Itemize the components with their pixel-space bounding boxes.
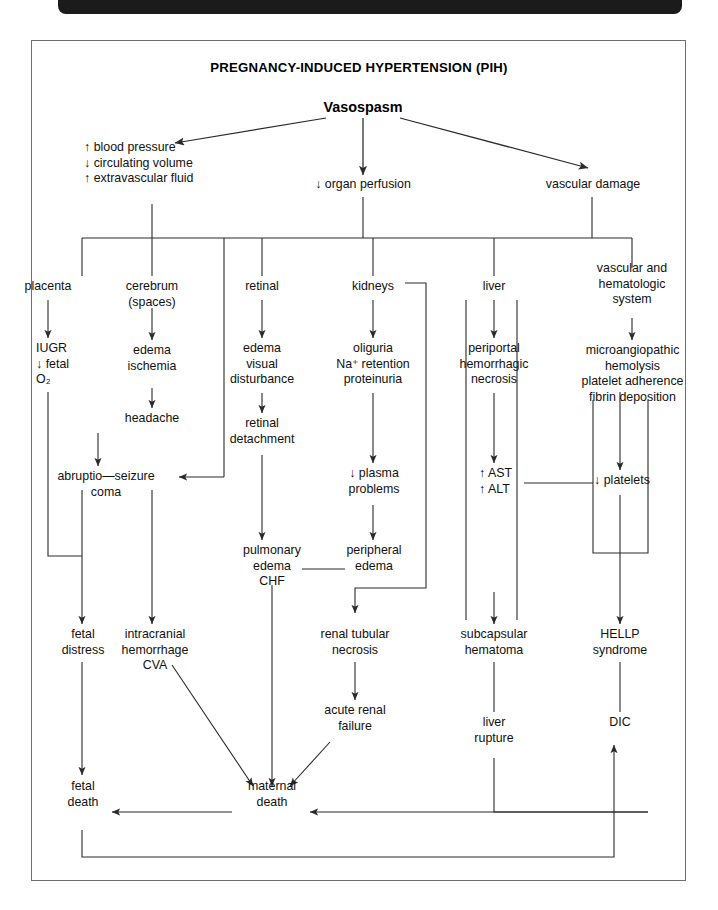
flowchart-connectors <box>0 0 718 910</box>
node-renal-tubular-necrosis: renal tubularnecrosis <box>300 627 410 658</box>
node-retinal: retinal <box>222 279 302 295</box>
node-retinal-edema: edemavisualdisturbance <box>207 341 317 388</box>
node-hellp-syndrome: HELLPsyndrome <box>568 627 672 658</box>
node-kidneys: kidneys <box>333 279 413 295</box>
node-edema-ischemia: edemaischemia <box>107 343 197 374</box>
node-fetal-death: fetaldeath <box>40 779 126 810</box>
edge-vasospasm-to-vascular-damage <box>400 118 588 168</box>
edge-cva-to-maternal-death <box>172 665 253 786</box>
node-organ-perfusion: ↓ organ perfusion <box>303 177 423 193</box>
node-vascular-damage: vascular damage <box>533 177 653 193</box>
node-retinal-detachment: retinaldetachment <box>207 416 317 447</box>
node-blood-pressure: ↑ blood pressure↓ circulating volume↑ ex… <box>84 140 254 187</box>
bottom-feedback-loop <box>82 830 614 857</box>
node-maternal-death: maternaldeath <box>218 779 326 810</box>
node-platelets: ↓ platelets <box>578 473 666 489</box>
node-vascular-hematologic: vascular andhematologicsystem <box>572 261 692 308</box>
node-headache: headache <box>107 411 197 427</box>
node-plasma-problems: ↓ plasmaproblems <box>328 466 420 497</box>
node-vasospasm: Vasospasm <box>305 99 421 115</box>
node-cerebrum: cerebrum(spaces) <box>107 279 197 310</box>
diagram-page: PREGNANCY-INDUCED HYPERTENSION (PIH) <box>0 0 718 910</box>
node-acute-renal-failure: acute renalfailure <box>300 703 410 734</box>
node-liver-rupture: liverrupture <box>444 715 544 746</box>
node-peripheral-edema: peripheraledema <box>322 543 426 574</box>
node-abruptio-seizure-coma: abruptio—seizurecoma <box>33 469 179 500</box>
node-microangiopathic: microangiopathichemolysisplatelet adhere… <box>555 343 710 406</box>
node-ast-alt: ↑ AST↑ ALT <box>479 466 549 497</box>
node-dic: DIC <box>580 715 660 731</box>
node-subcapsular-hematoma: subcapsularhematoma <box>439 627 549 658</box>
edge-liver-rupture-rail <box>494 758 648 812</box>
node-oliguria: oliguriaNa⁺ retentionproteinuria <box>318 341 428 388</box>
node-intracranial-hemorrhage-cva: intracranialhemorrhageCVA <box>100 627 210 674</box>
node-placenta: placenta <box>8 279 88 295</box>
node-liver: liver <box>454 279 534 295</box>
node-periportal-necrosis: periportalhemorrhagicnecrosis <box>439 341 549 388</box>
node-pulmonary-edema-chf: pulmonaryedemaCHF <box>218 543 326 590</box>
